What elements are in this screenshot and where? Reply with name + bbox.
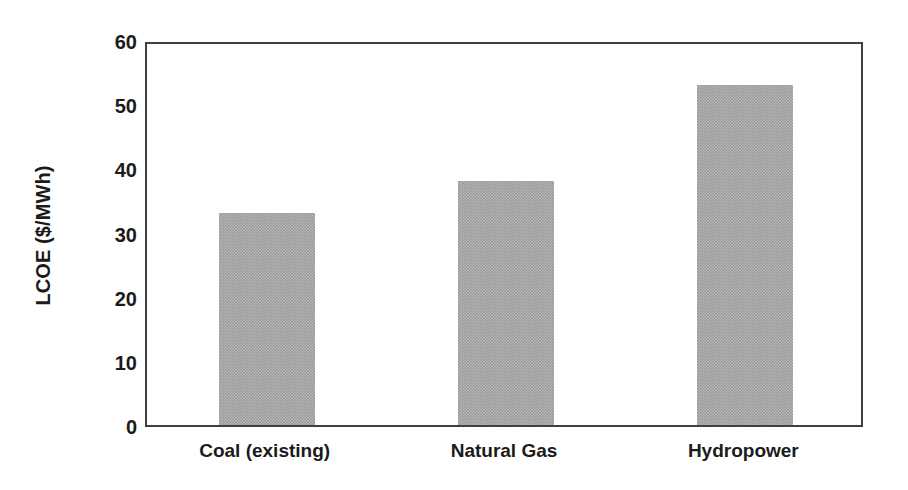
bar [697,85,793,425]
x-axis-tick-label: Natural Gas [451,440,558,463]
x-axis-tick-label: Coal (existing) [199,440,330,463]
y-axis-tick-label: 0 [89,417,137,437]
plot-area [145,42,863,427]
bars-container [147,44,861,425]
y-axis-tick-label: 20 [89,289,137,309]
y-axis-tick-labels: 0102030405060 [85,0,137,490]
bar [219,213,315,425]
bar-chart-figure: LCOE ($/MWh) 0102030405060 Coal (existin… [0,0,908,490]
y-axis-tick-label: 30 [89,225,137,245]
y-axis-tick-label: 10 [89,353,137,373]
y-axis-title: LCOE ($/MWh) [32,165,55,305]
y-axis-title-container: LCOE ($/MWh) [0,0,86,470]
x-axis-tick-label: Hydropower [688,440,799,463]
y-axis-tick-label: 60 [89,32,137,52]
bar [458,181,554,425]
y-axis-tick-label: 40 [89,160,137,180]
x-axis-tick-labels: Coal (existing)Natural GasHydropower [145,440,863,476]
y-axis-tick-label: 50 [89,96,137,116]
